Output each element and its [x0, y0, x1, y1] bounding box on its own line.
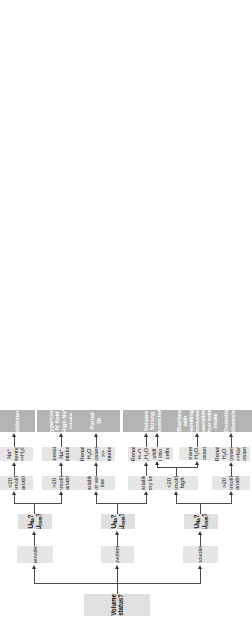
- diagnosis-hypovolemia-path2: SeizureStrong exercise: [136, 410, 169, 432]
- mechanism-hypovolemia-path0: Renal H2O losses>>Na+ losses: [212, 447, 235, 461]
- arrow-lab-to-mech-hypervolemia-path1: [12, 462, 16, 466]
- lab-value-label-hypovolemia-path0: >20 mmol/L, variable: [221, 476, 235, 490]
- mechanism-label-hypovolemia-path0: Renal H2O losses>>Na+ losses: [214, 447, 235, 461]
- connector-root-to-hypervolemia: [34, 568, 35, 584]
- connector-split-hypovolemia-path0: [231, 494, 232, 504]
- lab-question-label-hypovolemia: UNa? Uosm?: [193, 514, 209, 529]
- arrow-root-to-hypovolemia: [198, 565, 202, 569]
- arrow-mech-to-dx-hypovolemia-path0: [229, 433, 233, 437]
- diagnosis-label-hypovolemia-path1: Diarrhea with vomitingIncreased insensib…: [176, 410, 218, 432]
- lab-value-hypervolemia-path0: >20 mmol/L, variable: [42, 476, 80, 490]
- diagnosis-hypervolemia-path1: Hyperaldosteronism: [0, 410, 35, 432]
- connector-euvolemia-to-lab: [117, 534, 118, 546]
- connector-lab-to-mech-hypervolemia-path0: [61, 465, 62, 476]
- volume-label-euvolemia: Euvolemia: [114, 546, 121, 563]
- arrow-split-hypovolemia-path0: [229, 491, 233, 495]
- arrow-mech-to-dx-hypovolemia-path2: [155, 433, 159, 437]
- lab-value-label-euvolemia-path0: Variable, very low: [140, 476, 153, 490]
- root-trunk-line: [117, 584, 118, 594]
- diagnosis-euvolemia-path1: Partial DI: [72, 410, 120, 432]
- connector-lab-to-mech-hypervolemia-path1: [14, 465, 15, 476]
- volume-node-hypervolemia: Hypervolemia: [17, 546, 53, 563]
- split-spine-euvolemia: [96, 503, 146, 504]
- lab-question-hypovolemia: UNa? Uosm?: [184, 514, 218, 529]
- arrow-lab-to-mech-hypovolemia-path0: [229, 462, 233, 466]
- arrow-mech-to-dx-euvolemia-path0: [144, 433, 148, 437]
- connector-split-hypervolemia-path1: [14, 494, 15, 504]
- mechanism-label-hypovolemia-path2: H2O shiftinto cells: [143, 448, 170, 459]
- lab-value-label-hypervolemia-path1: <20 mmol/L, variable: [7, 476, 27, 490]
- lab-value-euvolemia-path1: Variable, not very low: [77, 476, 115, 490]
- connector-mech-to-dx-hypervolemia-path1: [14, 436, 15, 447]
- mechanism-label-hypervolemia-path1: Na+ retention >>H2O: [6, 447, 27, 461]
- connector-mech-to-dx-hypovolemia-path1: [197, 436, 198, 447]
- connector-mech-to-dx-hypovolemia-path0: [231, 436, 232, 447]
- root-label: Volume status?: [110, 594, 124, 616]
- connector-mech-to-dx-euvolemia-path1: [96, 436, 97, 447]
- split-spine-hypervolemia: [14, 503, 61, 504]
- root-node-volume-status: Volume status?: [84, 594, 150, 616]
- volume-node-hypovolemia: Hypovolemia: [183, 546, 218, 563]
- split-stem-euvolemia: [117, 504, 118, 514]
- mechanism-hypovolemia-path2: H2O shiftinto cells: [141, 447, 173, 460]
- volume-label-hypovolemia: Hypovolemia: [197, 546, 204, 563]
- lab-value-label-hypervolemia-path0: >20 mmol/L, variable: [51, 476, 71, 490]
- diagnosis-hypovolemia-path1: Diarrhea with vomitingIncreased insensib…: [172, 410, 222, 432]
- arrow-lab-to-mech-hypervolemia-path0: [59, 462, 63, 466]
- lab-value-label-hypovolemia-path1: <20 mmol/L, high: [166, 476, 186, 490]
- lab-value-hypervolemia-path1: <20 mmol/L, variable: [0, 476, 33, 490]
- connector-lab-to-mech-euvolemia-path0: [146, 465, 147, 476]
- arrow-split-hypovolemia-path1: [174, 491, 178, 495]
- connector-hypovolemia-to-lab: [200, 534, 201, 546]
- mechanism-hypervolemia-path1: Na+ retention >>H2O: [0, 447, 33, 461]
- diagnosis-label-hypovolemia-path0: Osmotic diuresis: [223, 410, 235, 432]
- arrow-mech-to-dx-hypervolemia-path1: [12, 433, 16, 437]
- arrow-euvolemia-to-lab: [115, 531, 119, 535]
- arrow-mech-to-dx-hypervolemia-path0: [59, 433, 63, 437]
- mechanism-label-euvolemia-path1: Renal H2O losses>> intake: [79, 447, 113, 461]
- arrow-mech-to-dx-euvolemia-path1: [94, 433, 98, 437]
- connector-split-hypovolemia-path1: [176, 494, 177, 504]
- arrow-subsplit-extrarenal: [195, 461, 199, 465]
- arrow-root-to-hypervolemia: [32, 565, 36, 569]
- arrow-lab-to-mech-euvolemia-path0: [144, 462, 148, 466]
- subsplit-stem-hypovolemia: [176, 468, 177, 476]
- connector-hypervolemia-to-lab: [34, 534, 35, 546]
- lab-value-hypovolemia-path1: <20 mmol/L, high: [154, 476, 198, 490]
- arrow-hypervolemia-to-lab: [32, 531, 36, 535]
- connector-lab-to-mech-euvolemia-path1: [96, 465, 97, 476]
- connector-lab-to-mech-hypovolemia-path0: [231, 465, 232, 476]
- lab-question-label-hypervolemia: UNa? Uosm?: [27, 514, 43, 529]
- connector-mech-to-dx-hypovolemia-path2: [157, 436, 158, 447]
- diagnosis-label-hypervolemia-path0: Hypertonic IV fluidHigh Na+ intake: [48, 410, 74, 432]
- connector-mech-to-dx-hypervolemia-path0: [61, 436, 62, 447]
- lab-question-label-euvolemia: UNa? Uosm?: [110, 514, 126, 529]
- subsplit-spine-hypovolemia: [157, 467, 197, 468]
- arrow-hypovolemia-to-lab: [198, 531, 202, 535]
- connector-split-hypervolemia-path0: [61, 494, 62, 504]
- arrow-split-euvolemia-path1: [94, 491, 98, 495]
- connector-root-to-euvolemia: [117, 568, 118, 584]
- lab-question-euvolemia: UNa? Uosm?: [101, 514, 135, 529]
- mechanism-euvolemia-path1: Renal H2O losses>> intake: [77, 447, 115, 461]
- connector-root-to-hypovolemia: [200, 568, 201, 584]
- diagram-rotation-wrapper: Volume status? Hypervolemia UNa? Uosm? >…: [0, 0, 235, 622]
- diagnosis-label-hypervolemia-path1: Hyperaldosteronism: [14, 410, 21, 432]
- arrow-lab-to-mech-euvolemia-path1: [94, 462, 98, 466]
- mechanism-hypovolemia-path1: ExtrarenalH2O losses: [179, 447, 215, 460]
- hypernatremia-flowchart: Volume status? Hypervolemia UNa? Uosm? >…: [0, 0, 235, 622]
- arrow-mech-to-dx-hypovolemia-path1: [195, 433, 199, 437]
- arrow-root-to-euvolemia: [115, 565, 119, 569]
- connector-split-euvolemia-path1: [96, 494, 97, 504]
- lab-question-hypervolemia: UNa? Uosm?: [18, 514, 52, 529]
- diagnosis-label-euvolemia-path1: Partial DI: [89, 412, 102, 430]
- arrow-split-euvolemia-path0: [144, 491, 148, 495]
- diagnosis-label-hypovolemia-path2: SeizureStrong exercise: [143, 410, 163, 432]
- volume-node-euvolemia: Euvolemia: [101, 546, 134, 563]
- lab-value-label-euvolemia-path1: Variable, not very low: [86, 476, 106, 490]
- connector-mech-to-dx-euvolemia-path0: [146, 436, 147, 447]
- mechanism-label-hypovolemia-path1: ExtrarenalH2O losses: [187, 447, 208, 460]
- volume-label-hypervolemia: Hypervolemia: [32, 546, 39, 563]
- lab-value-hypovolemia-path0: >20 mmol/L, variable: [212, 476, 235, 490]
- arrow-split-hypervolemia-path1: [12, 491, 16, 495]
